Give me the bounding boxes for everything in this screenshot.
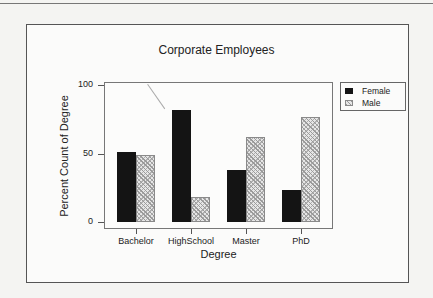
bar-female-phd (282, 190, 301, 222)
x-tick (136, 229, 137, 234)
y-tick-0 (98, 222, 104, 223)
x-tick-label: PhD (266, 236, 336, 246)
y-tick-50 (98, 154, 104, 155)
legend-label: Female (362, 86, 390, 96)
y-tick-100 (98, 85, 104, 86)
bar-male-master (246, 137, 265, 222)
x-tick (191, 229, 192, 234)
legend-item-male: Male (345, 98, 380, 108)
legend: Female Male (340, 82, 406, 111)
x-tick (246, 229, 247, 234)
bar-female-highschool (172, 110, 191, 222)
legend-label: Male (362, 98, 380, 108)
legend-item-female: Female (345, 86, 390, 96)
y-axis-title: Percent Count of Degree (58, 76, 70, 236)
x-axis-title: Degree (104, 248, 333, 260)
bar-female-master (227, 170, 246, 222)
female-swatch-icon (345, 88, 353, 94)
bar-male-highschool (191, 197, 210, 222)
x-tick (301, 229, 302, 234)
bar-female-bachelor (117, 152, 136, 222)
chart-title: Corporate Employees (0, 43, 433, 57)
bar-male-phd (301, 117, 320, 222)
male-swatch-icon (345, 100, 353, 106)
top-border-line (0, 3, 433, 4)
bar-male-bachelor (136, 155, 155, 222)
